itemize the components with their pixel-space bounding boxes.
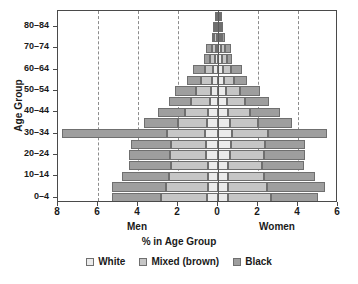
bar-segment	[228, 172, 264, 182]
y-tick-mark	[53, 47, 57, 48]
bar-segment	[211, 86, 218, 96]
bar-segment	[167, 129, 205, 139]
bar-segment	[220, 12, 222, 22]
x-tick-label: 8	[45, 206, 69, 217]
legend-swatch-icon	[86, 258, 94, 266]
bar-segment	[264, 172, 315, 182]
y-tick-mark	[53, 111, 57, 112]
y-tick-mark	[53, 154, 57, 155]
legend-item: White	[86, 256, 125, 267]
bar-segment	[218, 172, 228, 182]
bar-segment	[228, 161, 262, 171]
bar-segment	[204, 54, 210, 64]
bar-segment	[223, 65, 231, 75]
bar-segment	[221, 22, 223, 32]
bar-segment	[230, 118, 258, 128]
bar-segment	[112, 193, 161, 202]
y-tick-label: 70–74	[0, 41, 49, 51]
bar-segment	[212, 44, 216, 54]
bar-row	[58, 193, 336, 202]
bar-row	[58, 12, 336, 22]
bar-segment	[208, 108, 218, 118]
bar-segment	[171, 140, 206, 150]
bar-segment	[144, 118, 178, 128]
bar-segment	[206, 44, 212, 54]
legend-label: Black	[245, 256, 272, 267]
bar-row	[58, 118, 336, 128]
bar-row	[58, 108, 336, 118]
x-tick-label: 6	[85, 206, 109, 217]
bar-segment	[230, 150, 264, 160]
bar-segment	[166, 182, 208, 192]
legend-swatch-icon	[233, 258, 241, 266]
legend-label: White	[98, 256, 125, 267]
bar-segment	[206, 140, 218, 150]
x-tick-label: 4	[125, 206, 149, 217]
bar-segment	[218, 150, 230, 160]
women-panel-label: Women	[242, 221, 312, 232]
bar-segment	[169, 172, 208, 182]
bar-row	[58, 76, 336, 86]
bar-row	[58, 65, 336, 75]
bar-segment	[210, 97, 218, 107]
y-tick-label: 80–84	[0, 20, 49, 30]
bar-row	[58, 54, 336, 64]
plot-area	[57, 10, 337, 202]
bar-row	[58, 172, 336, 182]
bar-segment	[210, 54, 215, 64]
x-axis-title: % in Age Group	[0, 236, 358, 247]
y-tick-mark	[53, 175, 57, 176]
bar-segment	[228, 108, 250, 118]
y-tick-label: 0–4	[0, 191, 49, 201]
men-panel-label: Men	[102, 221, 172, 232]
bar-segment	[218, 129, 232, 139]
bar-segment	[227, 54, 232, 64]
bar-segment	[222, 33, 225, 43]
bar-segment	[207, 193, 218, 202]
bar-segment	[262, 161, 304, 171]
bar-segment	[250, 108, 280, 118]
y-tick-label: 10–14	[0, 169, 49, 179]
legend-item: Black	[233, 256, 272, 267]
y-tick-mark	[53, 90, 57, 91]
legend-item: Mixed (brown)	[139, 256, 219, 267]
bar-segment	[205, 65, 213, 75]
bar-segment	[208, 161, 218, 171]
bar-segment	[171, 161, 208, 171]
y-tick-label: 20–24	[0, 148, 49, 158]
bar-row	[58, 44, 336, 54]
bar-segment	[212, 33, 214, 43]
bar-segment	[191, 97, 210, 107]
legend-swatch-icon	[139, 258, 147, 266]
bar-segment	[218, 161, 228, 171]
y-tick-label: 30–34	[0, 127, 49, 137]
x-tick-label: 6	[325, 206, 349, 217]
bar-segment	[240, 86, 260, 96]
bar-segment	[225, 44, 231, 54]
zero-axis-line	[218, 11, 219, 201]
bar-segment	[196, 86, 211, 96]
legend-label: Mixed (brown)	[151, 256, 219, 267]
bar-row	[58, 150, 336, 160]
bar-segment	[231, 140, 265, 150]
bar-segment	[258, 118, 292, 128]
bar-segment	[129, 161, 171, 171]
x-tick-label: 2	[245, 206, 269, 217]
bar-segment	[178, 118, 207, 128]
bar-segment	[131, 140, 171, 150]
bar-segment	[267, 182, 325, 192]
bar-segment	[218, 118, 230, 128]
bar-segment	[228, 182, 267, 192]
bar-segment	[193, 65, 205, 75]
y-tick-label: 60–64	[0, 63, 49, 73]
bar-segment	[112, 182, 166, 192]
bar-segment	[218, 97, 227, 107]
bar-segment	[206, 150, 218, 160]
bar-segment	[161, 193, 207, 202]
bar-segment	[214, 33, 216, 43]
bar-segment	[218, 108, 228, 118]
x-tick-label: 2	[165, 206, 189, 217]
bar-segment	[218, 193, 228, 202]
bar-segment	[208, 172, 218, 182]
bar-segment	[232, 129, 268, 139]
